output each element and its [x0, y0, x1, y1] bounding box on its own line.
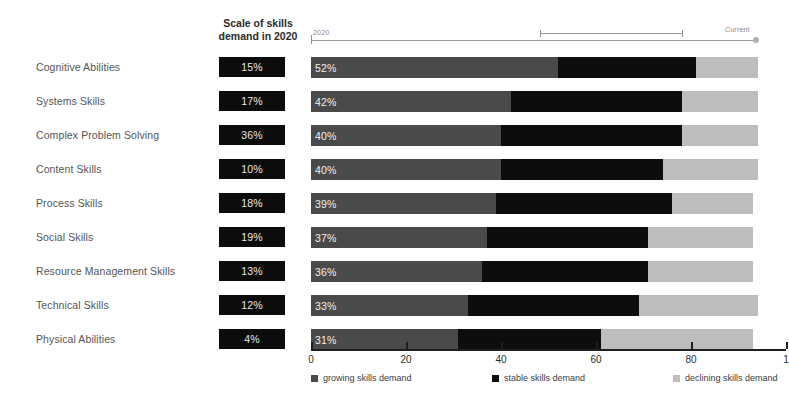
legend-label: growing skills demand [323, 373, 412, 383]
scale-column-header: Scale of skills demand in 2020 [212, 17, 304, 42]
row-label: Complex Problem Solving [36, 129, 216, 141]
bar-segment-declining [696, 57, 758, 78]
annotation-right-marker [753, 37, 759, 43]
scale-column-header-line2: demand in 2020 [212, 30, 304, 43]
bar-segment-growing [311, 227, 487, 248]
bar-segment-declining [682, 125, 758, 146]
annotation-range-line [540, 33, 682, 34]
bar-segment-growing [311, 193, 496, 214]
bar-segment-stable [458, 329, 601, 350]
x-axis-tick-label: 80 [685, 354, 696, 365]
x-axis-tick [406, 342, 408, 349]
bar-segment-stable [482, 261, 648, 282]
bar-value-label: 40% [315, 125, 337, 146]
x-axis-tick-label: 20 [400, 354, 411, 365]
scale-demand-badge: 12% [219, 295, 285, 315]
bar-segment-growing [311, 91, 511, 112]
row-label: Technical Skills [36, 299, 216, 311]
bar-value-label: 40% [315, 159, 337, 180]
stacked-bar: 33% [311, 295, 758, 316]
stacked-bar: 39% [311, 193, 753, 214]
scale-demand-badge: 15% [219, 57, 285, 77]
bar-segment-declining [639, 295, 758, 316]
x-axis-tick [501, 342, 503, 349]
bar-value-label: 33% [315, 295, 337, 316]
scale-demand-badge: 10% [219, 159, 285, 179]
bar-segment-declining [648, 261, 753, 282]
x-axis-tick-label: 40 [495, 354, 506, 365]
annotation-label-2020: 2020 [313, 29, 329, 36]
scale-demand-badge: 18% [219, 193, 285, 213]
x-axis-tick [596, 342, 598, 349]
scale-demand-badge: 19% [219, 227, 285, 247]
bar-segment-stable [501, 125, 682, 146]
legend-swatch-icon [311, 375, 318, 382]
row-label: Cognitive Abilities [36, 61, 216, 73]
bar-segment-stable [496, 193, 672, 214]
annotation-range-cap-left [540, 30, 541, 37]
bar-value-label: 36% [315, 261, 337, 282]
bar-segment-stable [501, 159, 663, 180]
bar-value-label: 37% [315, 227, 337, 248]
bar-value-label: 42% [315, 91, 337, 112]
legend-item: stable skills demand [492, 373, 585, 383]
legend-item: growing skills demand [311, 373, 412, 383]
row-label: Systems Skills [36, 95, 216, 107]
row-label: Process Skills [36, 197, 216, 209]
legend-label: declining skills demand [685, 373, 778, 383]
bar-segment-growing [311, 125, 501, 146]
x-axis-tick-label: 1 [783, 354, 789, 365]
bar-segment-declining [663, 159, 758, 180]
legend-label: stable skills demand [504, 373, 585, 383]
x-axis-line [311, 349, 786, 351]
legend-item: declining skills demand [673, 373, 778, 383]
bar-value-label: 31% [315, 329, 337, 350]
scale-demand-badge: 17% [219, 91, 285, 111]
annotation-main-line [311, 40, 757, 41]
legend-swatch-icon [492, 375, 499, 382]
bar-segment-stable [558, 57, 696, 78]
row-label: Social Skills [36, 231, 216, 243]
legend-swatch-icon [673, 375, 680, 382]
row-label: Resource Management Skills [36, 265, 216, 277]
bar-segment-growing [311, 159, 501, 180]
stacked-bar: 40% [311, 125, 758, 146]
bar-segment-stable [511, 91, 682, 112]
x-axis-tick [311, 342, 313, 349]
stacked-bar: 42% [311, 91, 758, 112]
bar-segment-declining [601, 329, 753, 350]
bar-segment-declining [648, 227, 753, 248]
annotation-label-current: Current [725, 26, 750, 33]
bar-value-label: 52% [315, 57, 337, 78]
scale-demand-badge: 4% [219, 329, 285, 349]
row-label: Content Skills [36, 163, 216, 175]
bar-segment-stable [468, 295, 639, 316]
annotation-range-cap-right [682, 30, 683, 37]
bar-segment-stable [487, 227, 649, 248]
bar-segment-growing [311, 261, 482, 282]
scale-demand-badge: 36% [219, 125, 285, 145]
stacked-bar: 52% [311, 57, 758, 78]
stacked-bar: 36% [311, 261, 753, 282]
stacked-bar: 37% [311, 227, 753, 248]
bar-segment-growing [311, 57, 558, 78]
x-axis-tick-label: 60 [590, 354, 601, 365]
bar-value-label: 39% [315, 193, 337, 214]
x-axis-tick-label: 0 [308, 354, 314, 365]
stacked-bar: 40% [311, 159, 758, 180]
bar-segment-declining [672, 193, 753, 214]
scale-column-header-line1: Scale of skills [212, 17, 304, 30]
x-axis-tick [691, 342, 693, 349]
scale-demand-badge: 13% [219, 261, 285, 281]
bar-segment-declining [682, 91, 758, 112]
x-axis-tick [786, 342, 788, 349]
stacked-bar: 31% [311, 329, 753, 350]
row-label: Physical Abilities [36, 333, 216, 345]
